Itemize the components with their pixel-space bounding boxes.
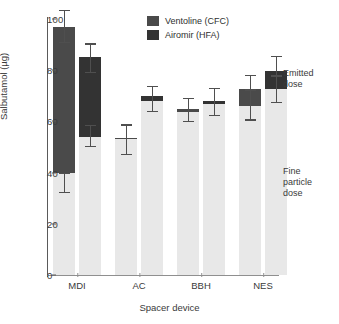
annotation-fine-line2: particle	[283, 177, 312, 188]
y-axis-label: Salbutamol (µg)	[0, 53, 9, 120]
error-bar-stem	[90, 43, 91, 72]
x-axis-tickmark	[201, 273, 202, 277]
legend-label-airomir: Airomir (HFA)	[165, 30, 220, 40]
legend: Ventoline (CFC) Airomir (HFA)	[147, 16, 229, 44]
bar-segment-emitted-dose	[53, 27, 75, 173]
bar-segment-fine-particle-dose	[239, 106, 261, 275]
error-bar-cap-lower	[85, 72, 96, 73]
bar-segment-fine-particle-dose	[115, 139, 137, 275]
plot-area	[47, 19, 275, 275]
error-bar-stem	[188, 98, 189, 122]
error-bar-cap-lower	[245, 119, 256, 120]
bar-ac-airomir[interactable]	[141, 96, 163, 275]
y-axis-tickmark	[52, 121, 56, 122]
bar-segment-fine-particle-dose	[141, 101, 163, 275]
x-axis-tick-label: NES	[253, 280, 273, 291]
annotation-fine-line3: dose	[283, 188, 312, 199]
error-bar-cap-lower	[59, 42, 70, 43]
error-bar-stem	[250, 75, 251, 121]
annotation-fine-line1: Fine	[283, 166, 312, 177]
x-axis-tick-mdi: MDI	[68, 277, 85, 288]
error-bar-cap-upper	[85, 43, 96, 44]
salbutamol-spacer-device-chart: Salbutamol (µg) Spacer device Ventoline …	[0, 0, 339, 324]
error-bar-cap-lower	[121, 154, 132, 155]
error-bar-cap-upper	[59, 173, 70, 174]
x-axis-tick-ac: AC	[132, 277, 145, 288]
y-axis-tickmark	[52, 275, 56, 276]
error-bar-stem	[276, 56, 277, 103]
bar-bbh-airomir[interactable]	[203, 102, 225, 275]
legend-item-ventoline: Ventoline (CFC)	[147, 16, 229, 26]
error-bar-cap-lower	[147, 111, 158, 112]
bar-mdi-airomir[interactable]	[79, 57, 101, 275]
y-axis-tick-0: 0	[47, 270, 52, 281]
error-bar-cap-lower	[59, 192, 70, 193]
error-bar-stem	[64, 10, 65, 43]
annotation-fine-particle-dose: Fine particle dose	[283, 166, 312, 199]
error-bar-cap-upper	[245, 75, 256, 76]
bar-bbh-ventoline[interactable]	[177, 110, 199, 275]
error-bar-cap-upper	[121, 124, 132, 125]
y-axis-tick-20: 20	[47, 218, 52, 229]
x-axis-tickmark	[139, 273, 140, 277]
legend-swatch-airomir-icon	[147, 30, 159, 40]
error-bar-cap-lower	[209, 115, 220, 116]
x-axis-label: Spacer device	[0, 302, 339, 313]
y-axis-tickmark	[52, 70, 56, 71]
x-axis-tick-label: MDI	[68, 280, 85, 291]
error-bar-cap-lower	[85, 146, 96, 147]
y-axis-tick-100: 100	[47, 14, 52, 25]
error-bar-cap-upper	[147, 86, 158, 87]
annotation-emitted-line1: Emitted	[283, 68, 314, 79]
legend-swatch-ventoline-icon	[147, 16, 159, 26]
y-axis-tickmark	[52, 223, 56, 224]
x-axis-tick-nes: NES	[253, 277, 273, 288]
bar-segment-fine-particle-dose	[203, 102, 225, 275]
error-bar-cap-upper	[271, 56, 282, 57]
error-bar-stem	[64, 173, 65, 193]
x-axis-tick-label: AC	[132, 280, 145, 291]
annotation-emitted-dose: Emitted dose	[283, 68, 314, 90]
x-axis-tickmark	[263, 273, 264, 277]
x-axis-line	[47, 275, 279, 276]
x-axis-tick-bbh: BBH	[191, 277, 211, 288]
legend-item-airomir: Airomir (HFA)	[147, 30, 229, 40]
x-axis-tickmark	[77, 273, 78, 277]
annotation-emitted-line2: dose	[283, 79, 314, 90]
error-bar-cap-lower	[271, 102, 282, 103]
legend-label-ventoline: Ventoline (CFC)	[165, 16, 229, 26]
y-axis-tick-40: 40	[47, 167, 52, 178]
error-bar-stem	[126, 124, 127, 154]
error-bar-cap-lower	[183, 121, 194, 122]
error-bar-stem	[214, 88, 215, 116]
bar-ac-ventoline[interactable]	[115, 138, 137, 275]
error-bar-stem	[90, 125, 91, 147]
bar-segment-fine-particle-dose	[177, 110, 199, 275]
bar-segment-fine-particle-dose	[79, 137, 101, 275]
y-axis-tick-80: 80	[47, 65, 52, 76]
error-bar-cap-upper	[85, 125, 96, 126]
error-bar-cap-upper	[209, 88, 220, 89]
error-bar-cap-upper	[59, 10, 70, 11]
y-axis-tickmark	[52, 19, 56, 20]
y-axis-tickmark	[52, 172, 56, 173]
x-axis-tick-label: BBH	[191, 280, 211, 291]
error-bar-cap-upper	[183, 98, 194, 99]
error-bar-stem	[152, 86, 153, 113]
y-axis-tick-60: 60	[47, 116, 52, 127]
